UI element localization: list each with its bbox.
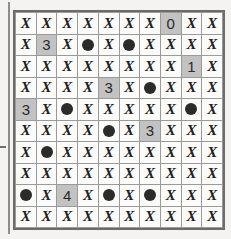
grid-cell[interactable]: X [57, 164, 77, 185]
grid-cell[interactable]: X [202, 56, 222, 77]
grid-cell[interactable]: X [161, 207, 181, 228]
grid-cell[interactable]: X [57, 35, 77, 56]
grid-cell[interactable] [16, 185, 36, 206]
grid-cell[interactable] [37, 142, 57, 163]
grid-cell[interactable] [140, 185, 160, 206]
grid-cell[interactable]: X [16, 121, 36, 142]
grid-cell[interactable]: X [202, 185, 222, 206]
grid-cell[interactable]: X [120, 121, 140, 142]
grid-cell[interactable]: X [57, 56, 77, 77]
grid-cell[interactable] [99, 121, 119, 142]
grid-cell[interactable]: X [161, 35, 181, 56]
grid-cell[interactable]: X [78, 164, 98, 185]
grid-cell[interactable]: X [37, 78, 57, 99]
grid-cell[interactable]: X [161, 164, 181, 185]
grid-cell[interactable]: X [16, 56, 36, 77]
grid-cell[interactable]: X [16, 13, 36, 34]
grid-cell[interactable]: X [78, 207, 98, 228]
grid-cell[interactable]: X [99, 142, 119, 163]
grid-cell[interactable]: X [37, 13, 57, 34]
grid-cell[interactable]: X [161, 56, 181, 77]
grid-cell[interactable]: 1 [182, 56, 202, 77]
grid-cell[interactable]: X [140, 13, 160, 34]
grid-cell[interactable]: X [57, 13, 77, 34]
grid-cell[interactable]: X [202, 99, 222, 120]
grid-cell[interactable]: X [78, 185, 98, 206]
grid-cell[interactable]: X [16, 207, 36, 228]
grid-cell[interactable]: X [37, 56, 57, 77]
grid-cell[interactable]: X [37, 121, 57, 142]
grid-cell[interactable]: X [16, 35, 36, 56]
grid-cell[interactable]: X [78, 78, 98, 99]
grid-cell[interactable]: X [161, 121, 181, 142]
grid-cell[interactable]: X [120, 142, 140, 163]
grid-cell[interactable]: X [182, 207, 202, 228]
grid-cell[interactable]: X [99, 56, 119, 77]
grid-cell[interactable]: X [16, 78, 36, 99]
grid-cell[interactable]: X [182, 35, 202, 56]
grid-cell[interactable]: X [78, 13, 98, 34]
grid-cell[interactable]: X [37, 164, 57, 185]
grid-cell[interactable]: X [140, 99, 160, 120]
grid-cell[interactable]: X [99, 35, 119, 56]
grid-cell[interactable]: X [202, 35, 222, 56]
grid-cell[interactable]: X [78, 142, 98, 163]
grid-cell[interactable] [182, 99, 202, 120]
grid-cell[interactable]: X [120, 78, 140, 99]
grid-cell[interactable]: X [161, 142, 181, 163]
grid-cell[interactable]: X [37, 185, 57, 206]
grid-cell[interactable]: X [140, 35, 160, 56]
grid-cell[interactable]: X [202, 13, 222, 34]
grid-cell[interactable]: X [182, 78, 202, 99]
grid-cell[interactable]: 3 [16, 99, 36, 120]
grid-cell[interactable] [78, 35, 98, 56]
grid-cell[interactable]: X [182, 13, 202, 34]
grid-cell[interactable]: X [37, 207, 57, 228]
grid-cell[interactable]: X [202, 121, 222, 142]
grid-cell[interactable] [57, 99, 77, 120]
grid-cell[interactable]: X [202, 207, 222, 228]
grid-cell[interactable]: X [16, 164, 36, 185]
grid-cell[interactable] [120, 35, 140, 56]
grid-cell[interactable]: 3 [37, 35, 57, 56]
grid-cell[interactable]: X [182, 121, 202, 142]
grid-cell[interactable] [99, 185, 119, 206]
grid-cell[interactable]: X [182, 142, 202, 163]
grid-cell[interactable]: X [161, 185, 181, 206]
grid-cell[interactable]: X [182, 164, 202, 185]
grid-cell[interactable]: X [120, 56, 140, 77]
grid-cell[interactable]: 0 [161, 13, 181, 34]
grid-cell[interactable]: X [182, 185, 202, 206]
grid-cell[interactable]: X [140, 142, 160, 163]
grid-cell[interactable]: X [202, 78, 222, 99]
grid-cell[interactable]: X [78, 56, 98, 77]
grid-cell[interactable]: X [57, 121, 77, 142]
grid-cell[interactable]: X [37, 99, 57, 120]
grid-cell[interactable]: X [140, 56, 160, 77]
grid-cell[interactable]: X [120, 185, 140, 206]
grid-cell[interactable]: X [161, 99, 181, 120]
grid-cell[interactable]: X [120, 13, 140, 34]
grid-cell[interactable]: X [57, 142, 77, 163]
grid-cell[interactable]: X [161, 78, 181, 99]
grid-cell[interactable]: X [202, 142, 222, 163]
grid-cell[interactable]: X [99, 99, 119, 120]
grid-cell[interactable]: X [78, 121, 98, 142]
grid-cell[interactable]: X [78, 99, 98, 120]
grid-cell[interactable]: X [140, 164, 160, 185]
grid-cell[interactable]: X [120, 164, 140, 185]
grid-cell[interactable]: 3 [99, 78, 119, 99]
grid-cell[interactable]: X [202, 164, 222, 185]
grid-cell[interactable]: X [99, 164, 119, 185]
grid-cell[interactable]: X [120, 99, 140, 120]
grid-cell[interactable]: X [120, 207, 140, 228]
grid-cell[interactable]: 4 [57, 185, 77, 206]
grid-cell[interactable] [140, 78, 160, 99]
grid-cell[interactable]: X [57, 207, 77, 228]
grid-cell[interactable]: X [99, 13, 119, 34]
grid-cell[interactable]: X [99, 207, 119, 228]
grid-cell[interactable]: X [57, 78, 77, 99]
grid-cell[interactable]: X [16, 142, 36, 163]
grid-cell[interactable]: X [140, 207, 160, 228]
grid-cell[interactable]: 3 [140, 121, 160, 142]
